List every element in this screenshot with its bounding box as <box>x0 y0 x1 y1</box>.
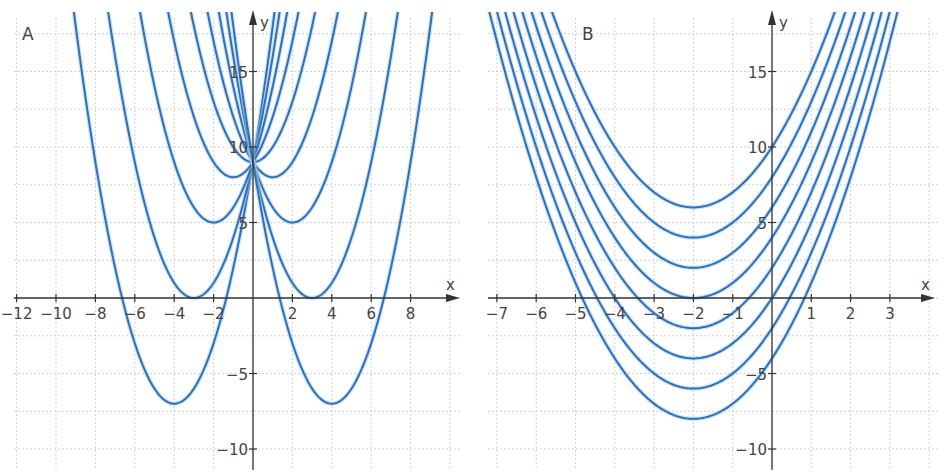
y-tick-label: −5 <box>745 366 767 384</box>
x-tick-label: −3 <box>643 305 665 323</box>
x-tick-label: 4 <box>327 305 337 323</box>
y-tick-label: 5 <box>238 215 248 233</box>
chart-canvas: xy−12−10−8−6−4−22468−10−551015A xy−7−6−5… <box>0 0 943 475</box>
figure: xy−12−10−8−6−4−22468−10−551015A xy−7−6−5… <box>0 0 943 475</box>
x-tick-label: 8 <box>406 305 416 323</box>
panel-title: B <box>582 24 594 44</box>
y-tick-label: −5 <box>226 366 248 384</box>
y-axis-label: y <box>779 14 788 32</box>
y-tick-label: 10 <box>229 139 248 157</box>
y-tick-label: −10 <box>216 441 248 459</box>
y-tick-label: 15 <box>748 64 767 82</box>
panel-title: A <box>22 24 34 44</box>
x-axis-arrow-icon <box>446 294 460 302</box>
y-axis-label: y <box>260 14 269 32</box>
x-tick-label: −6 <box>124 305 146 323</box>
y-tick-label: 15 <box>229 64 248 82</box>
x-axis-label: x <box>446 276 455 294</box>
y-axis-arrow-icon <box>249 10 257 25</box>
x-tick-label: −2 <box>203 305 225 323</box>
x-tick-label: 1 <box>807 305 817 323</box>
curves <box>447 0 943 419</box>
x-tick-label: −12 <box>1 305 33 323</box>
x-tick-label: 2 <box>846 305 856 323</box>
x-tick-label: 2 <box>288 305 298 323</box>
y-tick-label: 10 <box>748 139 767 157</box>
x-tick-label: −10 <box>40 305 72 323</box>
x-tick-label: 6 <box>366 305 376 323</box>
x-tick-label: −6 <box>525 305 547 323</box>
y-axis-arrow-icon <box>768 10 776 25</box>
panel-a: xy−12−10−8−6−4−22468−10−551015A <box>1 0 460 470</box>
x-axis-arrow-icon <box>921 294 935 302</box>
x-axis-label: x <box>921 276 930 294</box>
x-tick-label: 3 <box>885 305 895 323</box>
x-tick-label: −8 <box>84 305 106 323</box>
panel-b: xy−7−6−5−4−3−2−1123−10−551015B <box>447 0 943 470</box>
y-tick-label: 5 <box>757 215 767 233</box>
x-tick-label: −4 <box>163 305 185 323</box>
y-tick-label: −10 <box>735 441 767 459</box>
x-tick-label: −1 <box>722 305 744 323</box>
x-tick-label: −5 <box>564 305 586 323</box>
x-tick-label: −2 <box>682 305 704 323</box>
x-tick-label: −4 <box>604 305 626 323</box>
x-tick-label: −7 <box>486 305 508 323</box>
